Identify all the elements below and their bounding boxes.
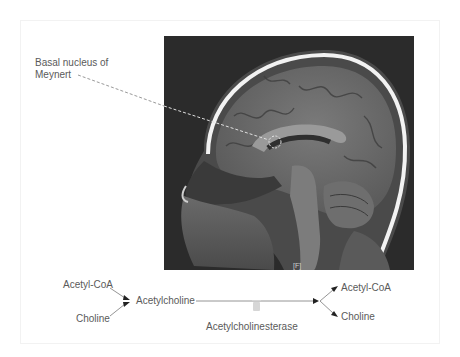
breakdown-choline: Choline xyxy=(341,311,375,323)
mri-figure-tag: [F] xyxy=(293,262,301,270)
enzyme-block-icon xyxy=(253,302,260,311)
reactant-choline: Choline xyxy=(76,313,110,325)
breakdown-acetyl-coa: Acetyl-CoA xyxy=(341,282,391,294)
enzyme-acetylcholinesterase: Acetylcholinesterase xyxy=(206,321,298,333)
annotation-label-line2: Meynert xyxy=(35,69,71,81)
annotation-label-line1: Basal nucleus of xyxy=(35,57,108,69)
product-acetylcholine: Acetylcholine xyxy=(136,295,195,307)
mri-sagittal-image: [F] xyxy=(164,36,414,270)
reactant-acetyl-coa: Acetyl-CoA xyxy=(63,279,113,291)
mri-illustration xyxy=(164,36,414,270)
